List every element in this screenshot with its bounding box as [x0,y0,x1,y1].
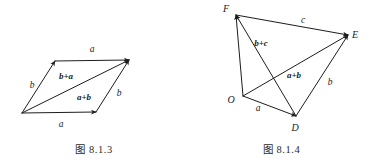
vector-sum-of [236,15,243,96]
label-a-plus-b: a+b [77,92,92,102]
vertex-label-F: F [222,3,230,14]
label-b-plus-a: b+a [59,71,74,81]
label-a-bottom: a [59,119,64,129]
figure-8-1-3-canvas: a b b a b+a a+b [0,0,188,140]
figure-8-1-3: a b b a b+a a+b 图 8.1.3 [0,0,188,166]
figure-8-1-4-caption: 图 8.1.4 [188,141,375,156]
label-a: a [256,103,261,113]
figure-sheet: a b b a b+a a+b 图 8.1.3 [0,0,375,166]
vertex-label-O: O [227,94,234,105]
vector-a-top [55,60,129,61]
label-c: c [301,15,306,25]
vector-c [236,15,348,35]
vertex-label-D: D [290,122,299,133]
figure-8-1-4: F E O D a b c a+b b+c 图 8.1.4 [188,0,375,166]
label-a-top: a [90,44,95,54]
vertex-label-E: E [351,29,358,40]
figure-8-1-3-caption: 图 8.1.3 [0,141,188,156]
vector-diagonal-resultant [22,60,129,113]
vector-a [243,96,296,116]
vector-b [296,35,348,116]
vector-a-bottom [22,112,96,113]
label-a-plus-b: a+b [287,70,302,80]
label-b: b [328,77,333,87]
vector-b-plus-c [236,15,296,116]
label-b-right: b [117,88,122,98]
figure-8-1-4-canvas: F E O D a b c a+b b+c [188,0,375,140]
label-b-plus-c: b+c [254,38,268,48]
label-b-left: b [30,80,35,90]
